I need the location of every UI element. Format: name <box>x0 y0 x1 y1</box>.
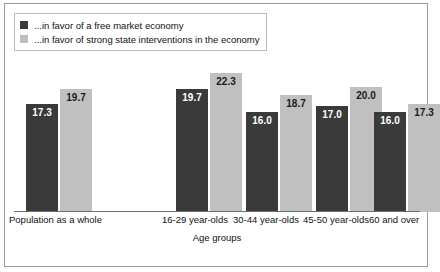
bar-60-and-over-free-market: 16.0 <box>374 112 406 212</box>
bar-population-state-intervention: 19.7 <box>60 89 92 212</box>
bar-value-label: 17.3 <box>408 107 440 118</box>
bar-30-44-free-market: 16.0 <box>246 112 278 212</box>
legend-item-free-market: ...in favor of a free market economy <box>20 18 259 32</box>
x-tick-label-60-and-over: 60 and over <box>369 214 419 226</box>
legend-label-state-intervention: ...in favor of strong state intervention… <box>34 34 259 45</box>
legend-item-state-intervention: ...in favor of strong state intervention… <box>20 32 259 46</box>
bar-group-30-44: 16.0 18.7 <box>246 95 312 212</box>
bar-group-16-29: 19.7 22.3 <box>176 73 242 212</box>
x-axis-title: Age groups <box>5 232 429 243</box>
x-axis-line <box>14 211 420 212</box>
bar-value-label: 22.3 <box>210 76 242 87</box>
bar-16-29-state-intervention: 22.3 <box>210 73 242 212</box>
x-tick-label-population: Population as a whole <box>9 214 102 226</box>
bar-value-label: 18.7 <box>280 98 312 109</box>
legend-swatch-state-intervention <box>20 35 28 43</box>
legend-swatch-free-market <box>20 21 28 29</box>
bar-value-label: 17.0 <box>316 109 348 120</box>
bar-value-label: 19.7 <box>60 92 92 103</box>
bar-group-45-50: 17.0 20.0 <box>316 87 382 212</box>
bar-population-free-market: 17.3 <box>26 104 58 212</box>
bar-16-29-free-market: 19.7 <box>176 89 208 212</box>
chart-frame: ...in favor of a free market economy ...… <box>4 3 428 267</box>
bar-value-label: 19.7 <box>176 92 208 103</box>
bar-value-label: 16.0 <box>374 115 406 126</box>
plot-area: 17.3 19.7 19.7 22.3 16.0 18.7 17.0 <box>14 56 420 212</box>
bar-45-50-free-market: 17.0 <box>316 106 348 212</box>
bar-value-label: 16.0 <box>246 115 278 126</box>
x-tick-label-45-50: 45-50 year-olds <box>303 214 369 226</box>
bar-60-and-over-state-intervention: 17.3 <box>408 104 440 212</box>
bar-value-label: 17.3 <box>26 107 58 118</box>
x-tick-label-30-44: 30-44 year-olds <box>233 214 299 226</box>
bar-30-44-state-intervention: 18.7 <box>280 95 312 212</box>
bar-group-60-and-over: 16.0 17.3 <box>374 104 440 212</box>
chart-legend: ...in favor of a free market economy ...… <box>14 13 267 51</box>
bar-value-label: 20.0 <box>350 90 382 101</box>
bar-group-population: 17.3 19.7 <box>26 89 92 212</box>
x-tick-label-16-29: 16-29 year-olds <box>162 214 228 226</box>
legend-label-free-market: ...in favor of a free market economy <box>34 20 183 31</box>
